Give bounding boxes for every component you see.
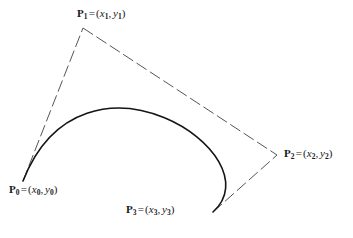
equals-sign-p1: = [88, 7, 96, 19]
equals-sign-p3: = [137, 203, 145, 215]
point-symbol-p2: P [284, 147, 291, 159]
point-symbol-p3: P [126, 203, 133, 215]
polygon-segment-p1-p2 [83, 28, 277, 155]
close-paren-p3: ) [171, 203, 175, 215]
equals-sign-p2: = [295, 147, 303, 159]
control-polygon [23, 28, 277, 212]
polygon-segment-p3-p2 [213, 155, 277, 212]
close-paren-p2: ) [329, 147, 333, 159]
close-paren-p1: ) [122, 7, 126, 19]
polygon-segment-p0-p1 [23, 28, 83, 181]
figure-container: P0=(x0,y0) P1=(x1,y1) P2=(x2,y2) P3=(x3,… [0, 0, 353, 238]
control-point-label-p1: P1=(x1,y1) [77, 7, 126, 21]
bezier-diagram [0, 0, 353, 238]
equals-sign-p0: = [20, 183, 28, 195]
control-point-label-p2: P2=(x2,y2) [284, 147, 333, 161]
point-symbol-p1: P [77, 7, 84, 19]
point-symbol-p0: P [9, 183, 16, 195]
control-point-label-p0: P0=(x0,y0) [9, 183, 58, 197]
control-point-label-p3: P3=(x3,y3) [126, 203, 175, 217]
close-paren-p0: ) [54, 183, 58, 195]
